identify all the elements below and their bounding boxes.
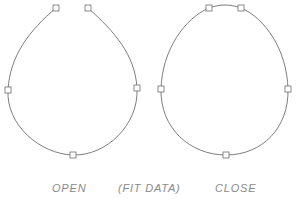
- fit-point-marker: [158, 86, 164, 92]
- closed-spline-curve: [161, 5, 288, 155]
- spline-diagram: OPEN (FIT DATA) CLOSE: [0, 0, 296, 199]
- close-label: CLOSE: [215, 182, 256, 194]
- fit-point-marker: [238, 5, 244, 11]
- fit-data-label: (FIT DATA): [118, 182, 181, 194]
- open-spline-curve: [8, 8, 137, 155]
- fit-point-marker: [5, 87, 11, 93]
- fit-point-marker: [134, 85, 140, 91]
- fit-point-marker: [85, 5, 91, 11]
- fit-point-marker: [53, 5, 59, 11]
- open-spline: [5, 5, 140, 158]
- open-label: OPEN: [52, 182, 86, 194]
- fit-point-marker: [223, 152, 229, 158]
- closed-spline: [158, 5, 291, 158]
- fit-point-marker: [206, 5, 212, 11]
- fit-point-marker: [285, 86, 291, 92]
- fit-point-marker: [70, 152, 76, 158]
